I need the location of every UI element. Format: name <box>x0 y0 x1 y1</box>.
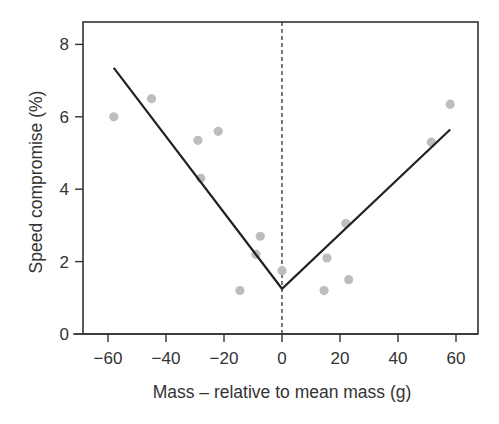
x-tick-label: −40 <box>152 349 181 368</box>
y-axis: 02468 <box>60 35 83 344</box>
y-tick-label: 4 <box>60 180 69 199</box>
x-tick-label: −60 <box>94 349 123 368</box>
data-point <box>109 112 118 121</box>
data-point <box>319 286 328 295</box>
x-tick-label: 0 <box>277 349 286 368</box>
data-point <box>147 94 156 103</box>
data-point <box>446 100 455 109</box>
scatter-chart: −60−40−200204060 02468 Mass – relative t… <box>0 0 499 424</box>
y-tick-label: 0 <box>60 325 69 344</box>
x-tick-label: 60 <box>447 349 466 368</box>
x-axis-title: Mass – relative to mean mass (g) <box>153 382 412 402</box>
data-point <box>193 136 202 145</box>
data-point <box>277 266 286 275</box>
data-point <box>256 232 265 241</box>
data-points <box>109 94 455 295</box>
y-tick-label: 6 <box>60 108 69 127</box>
x-tick-label: 40 <box>389 349 408 368</box>
data-point <box>235 286 244 295</box>
x-tick-label: −20 <box>210 349 239 368</box>
y-tick-label: 8 <box>60 35 69 54</box>
y-tick-label: 2 <box>60 253 69 272</box>
data-point <box>322 253 331 262</box>
y-axis-title: Speed compromise (%) <box>26 91 46 274</box>
data-point <box>214 127 223 136</box>
data-point <box>344 275 353 284</box>
data-point <box>341 219 350 228</box>
x-tick-label: 20 <box>331 349 350 368</box>
x-axis: −60−40−200204060 <box>73 334 478 368</box>
